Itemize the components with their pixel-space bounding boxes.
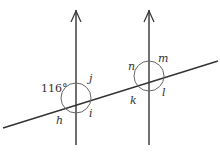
angle-label-m: m xyxy=(158,52,168,65)
angle-label-i: i xyxy=(89,107,93,120)
diagram-canvas: 116° j i h n m l k xyxy=(0,0,220,153)
left-parallel-line xyxy=(71,10,81,145)
angle-label-l: l xyxy=(162,86,166,99)
angle-label-j: j xyxy=(86,72,93,85)
transversal-line xyxy=(3,61,218,128)
angle-label-116: 116° xyxy=(41,82,68,95)
angle-label-n: n xyxy=(128,60,135,73)
parallel-lines-diagram: 116° j i h n m l k xyxy=(0,0,220,153)
right-parallel-line xyxy=(144,10,154,145)
angle-label-h: h xyxy=(56,114,63,127)
angle-label-k: k xyxy=(130,94,137,107)
